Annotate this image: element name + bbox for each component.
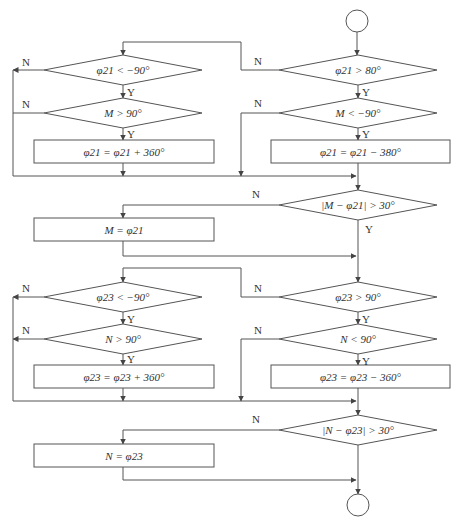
decision-label: N < 90° <box>339 333 376 345</box>
flowchart: φ21 > 80°M < −90°φ21 < −90°M > 90°|M − φ… <box>0 0 463 526</box>
decision-label: φ21 > 80° <box>335 64 381 76</box>
decision-label: |M − φ21| > 30° <box>321 199 395 211</box>
no-label: N <box>22 56 30 68</box>
no-label: N <box>22 324 30 336</box>
terminal-start <box>346 10 368 32</box>
decision-label: M < −90° <box>335 107 382 119</box>
decision-label: φ23 < −90° <box>97 291 150 303</box>
process-label: φ21 = φ21 + 360° <box>84 146 166 158</box>
yes-label: Y <box>127 313 135 325</box>
yes-label: Y <box>362 128 370 140</box>
decision-label: φ21 < −90° <box>97 64 150 76</box>
yes-label: Y <box>127 353 135 365</box>
decision-label: M > 90° <box>103 107 142 119</box>
connector-26 <box>123 430 279 444</box>
no-label: N <box>22 98 30 110</box>
yes-label: Y <box>127 128 135 140</box>
process-label: φ23 = φ23 − 360° <box>320 371 402 383</box>
no-label: N <box>254 97 262 109</box>
process-label: φ23 = φ23 + 360° <box>84 371 166 383</box>
process-label: M = φ21 <box>103 224 143 236</box>
no-label: N <box>252 188 260 200</box>
connector-27 <box>123 467 356 480</box>
no-label: N <box>254 324 262 336</box>
yes-label: Y <box>362 355 370 367</box>
no-label: N <box>254 282 262 294</box>
no-label: N <box>22 282 30 294</box>
no-label: N <box>254 55 262 67</box>
yes-label: Y <box>127 86 135 98</box>
process-label: N = φ23 <box>104 450 143 462</box>
decision-label: N > 90° <box>104 333 141 345</box>
terminal-end <box>347 494 369 516</box>
decision-label: φ23 > 90° <box>335 291 381 303</box>
yes-label: Y <box>362 86 370 98</box>
decision-label: |N − φ23| > 30° <box>322 424 394 436</box>
connector-13 <box>123 241 356 256</box>
yes-label: Y <box>365 223 373 235</box>
connector-12 <box>123 205 279 218</box>
yes-label: Y <box>362 313 370 325</box>
no-label: N <box>252 413 260 425</box>
flow-shapes: φ21 > 80°M < −90°φ21 < −90°M > 90°|M − φ… <box>34 10 450 516</box>
process-label: φ21 = φ21 − 380° <box>320 146 402 158</box>
